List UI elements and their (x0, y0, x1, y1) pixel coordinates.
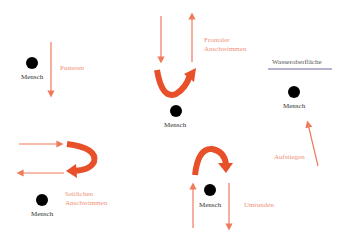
person-label: Mensch (164, 121, 186, 129)
label-umrunden: Umrunden (244, 201, 274, 210)
person-dot (36, 194, 48, 206)
side-curve-arrow (67, 144, 94, 171)
up-arrow (308, 124, 318, 166)
label-aufsteigen: Aufstiegen (274, 153, 305, 162)
label-pustern: Pusteren (60, 64, 84, 73)
person-label: Mensch (31, 210, 53, 218)
person-dot (26, 57, 38, 69)
person-label: Mensch (199, 201, 221, 209)
person-label: Mensch (21, 73, 43, 81)
person-dot (204, 184, 216, 196)
person-dot (170, 105, 182, 117)
person-dot (288, 86, 300, 98)
label-frontal: Frontaler Anschwimmen (204, 36, 246, 54)
loop-curve-arrow (195, 149, 226, 175)
label-seitlich: Seitlichen Anschwimmen (65, 190, 107, 208)
surface-label: Wasseroberfläche (272, 58, 322, 66)
person-label: Mensch (283, 102, 305, 110)
